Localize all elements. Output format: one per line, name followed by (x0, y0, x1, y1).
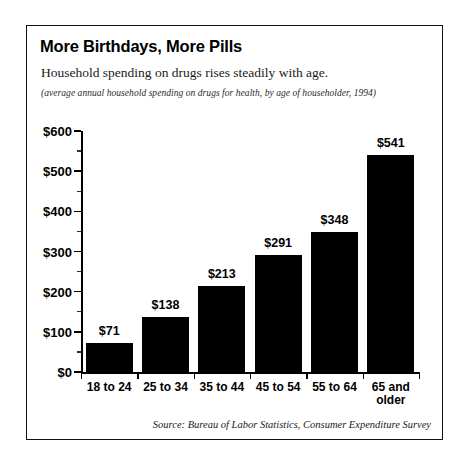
chart-note: (average annual household spending on dr… (41, 88, 442, 98)
bar-value-label: $71 (99, 324, 120, 338)
y-axis-label: $300 (43, 244, 72, 259)
chart-title: More Birthdays, More Pills (40, 37, 442, 56)
bar-value-label: $213 (208, 267, 236, 281)
y-axis-minor-tick (77, 191, 82, 192)
y-axis-tick (74, 170, 81, 171)
chart-header: More Birthdays, More Pills Household spe… (27, 26, 442, 98)
bar (255, 255, 302, 372)
bar-value-label: $291 (264, 236, 292, 250)
y-axis-label: $600 (43, 124, 72, 139)
chart-figure: More Birthdays, More Pills Household spe… (26, 25, 443, 440)
chart-subtitle: Household spending on drugs rises steadi… (41, 65, 442, 81)
bar (311, 232, 358, 372)
y-axis-label: $0 (58, 365, 72, 380)
x-axis-tick (194, 372, 195, 379)
y-axis-label: $200 (43, 284, 72, 299)
y-axis-tick (74, 130, 81, 131)
x-axis-category-label: 65 and older (358, 381, 424, 408)
bar (86, 343, 133, 372)
x-axis-tick (250, 372, 251, 379)
y-axis-label: $500 (43, 164, 72, 179)
y-axis-tick (74, 371, 81, 372)
bar (142, 317, 189, 372)
y-axis-label: $100 (43, 324, 72, 339)
chart-source: Source: Bureau of Labor Statistics, Cons… (153, 419, 431, 430)
bar (367, 155, 414, 372)
y-axis-tick (74, 291, 81, 292)
y-axis-label: $400 (43, 204, 72, 219)
y-axis-minor-tick (77, 150, 82, 151)
x-axis-tick (363, 372, 364, 379)
bar (198, 286, 245, 372)
y-axis-minor-tick (77, 271, 82, 272)
y-axis-tick (74, 331, 81, 332)
y-axis-minor-tick (77, 351, 82, 352)
x-axis-tick (419, 372, 420, 379)
y-axis-minor-tick (77, 231, 82, 232)
plot-area: $0$100$200$300$400$500$600 18 to 2425 to… (81, 131, 419, 372)
bar-value-label: $541 (377, 136, 405, 150)
y-axis-tick (74, 211, 81, 212)
x-axis-tick (306, 372, 307, 379)
bar-value-label: $138 (152, 298, 180, 312)
y-axis-minor-tick (77, 311, 82, 312)
x-axis-tick (137, 372, 138, 379)
bar-value-label: $348 (321, 213, 349, 227)
x-axis-tick (81, 372, 82, 379)
y-axis-tick (74, 251, 81, 252)
y-axis-line (81, 131, 83, 372)
